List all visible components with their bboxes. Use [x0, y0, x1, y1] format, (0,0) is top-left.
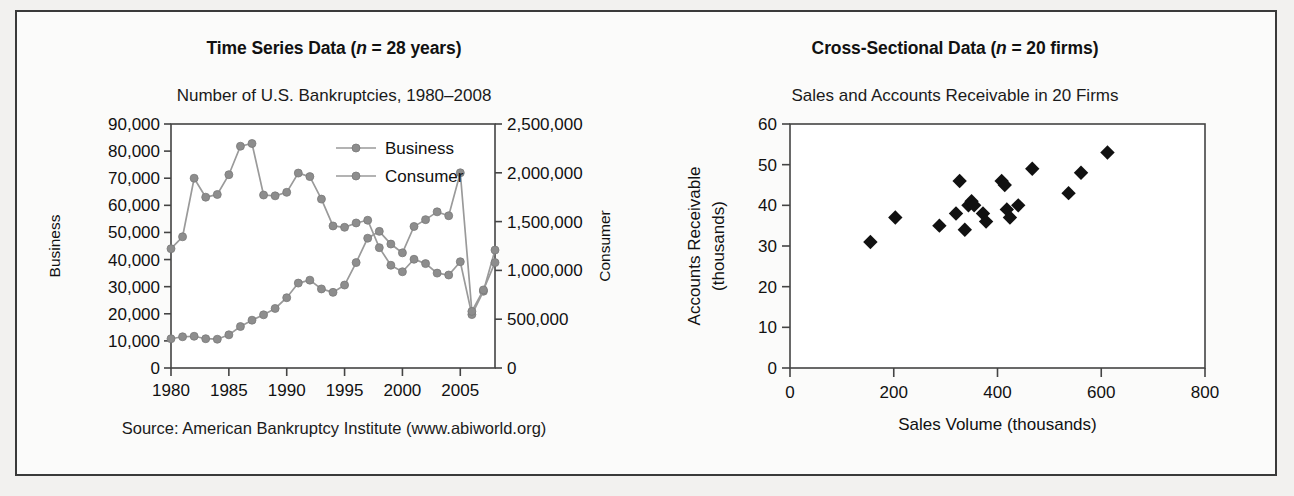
series-point-business — [375, 244, 383, 252]
scatter-x-label: 600 — [1087, 383, 1115, 402]
y-axis-label-left: 10,000 — [108, 332, 160, 351]
series-point-consumer — [433, 208, 441, 216]
series-point-consumer — [341, 281, 349, 289]
series-point-consumer — [294, 279, 302, 287]
y-axis-label-right: 2,500,000 — [507, 115, 583, 134]
series-point-consumer — [364, 234, 372, 242]
series-point-business — [329, 222, 337, 230]
y-axis-label-left: 20,000 — [108, 305, 160, 324]
scatter-y-label: 40 — [758, 196, 777, 215]
y-axis-label-right: 0 — [507, 359, 516, 378]
time-series-plot-background — [171, 124, 495, 368]
series-point-business — [225, 171, 233, 179]
scatter-title-suffix: = 20 firms) — [1007, 38, 1099, 58]
scatter-title-n-italic: n — [996, 38, 1007, 58]
series-point-business — [445, 271, 453, 279]
legend-label-business: Business — [385, 139, 454, 158]
scatter-x-label: 800 — [1191, 383, 1219, 402]
series-point-business — [213, 190, 221, 198]
series-point-business — [352, 219, 360, 227]
series-point-business — [387, 261, 395, 269]
series-point-consumer — [352, 259, 360, 267]
series-point-business — [271, 192, 279, 200]
y-axis-label-left: 40,000 — [108, 251, 160, 270]
scatter-x-title: Sales Volume (thousands) — [898, 415, 1096, 434]
series-point-business — [294, 169, 302, 177]
scatter-subtitle: Sales and Accounts Receivable in 20 Firm… — [650, 86, 1260, 106]
series-point-consumer — [491, 259, 499, 267]
time-series-chart-svg: 010,00020,00030,00040,00050,00060,00070,… — [18, 110, 650, 410]
series-point-business — [260, 191, 268, 199]
scatter-y-label: 0 — [768, 359, 777, 378]
y-axis-title-business: Business — [46, 214, 63, 277]
x-axis-label: 1980 — [152, 381, 190, 400]
scatter-plot-background — [790, 124, 1205, 368]
scatter-y-title-line2: (thousands) — [709, 201, 728, 291]
scatter-title-prefix: Cross-Sectional Data ( — [812, 38, 997, 58]
y-axis-label-left: 50,000 — [108, 223, 160, 242]
y-axis-label-left: 0 — [151, 359, 160, 378]
series-point-consumer — [306, 276, 314, 284]
scatter-y-label: 20 — [758, 278, 777, 297]
series-point-consumer — [260, 311, 268, 319]
y-axis-label-left: 30,000 — [108, 278, 160, 297]
series-point-consumer — [236, 323, 244, 331]
series-point-business — [398, 268, 406, 276]
legend-marker-business — [352, 144, 360, 152]
series-point-business — [179, 233, 187, 241]
scatter-x-label: 200 — [880, 383, 908, 402]
time-series-panel: Time Series Data (n = 28 years) Number o… — [18, 0, 650, 496]
x-axis-label: 2000 — [384, 381, 422, 400]
y-axis-label-right: 2,000,000 — [507, 164, 583, 183]
time-series-subtitle: Number of U.S. Bankruptcies, 1980–2008 — [18, 86, 650, 106]
series-point-consumer — [387, 240, 395, 248]
series-point-consumer — [213, 335, 221, 343]
series-point-consumer — [167, 335, 175, 343]
series-point-consumer — [283, 294, 291, 302]
y-axis-label-left: 60,000 — [108, 196, 160, 215]
y-axis-label-left: 90,000 — [108, 115, 160, 134]
cross-sectional-panel: Cross-Sectional Data (n = 20 firms) Sale… — [650, 0, 1260, 496]
series-point-consumer — [410, 222, 418, 230]
series-point-business — [248, 140, 256, 148]
scatter-y-label: 30 — [758, 237, 777, 256]
figure-container: Time Series Data (n = 28 years) Number o… — [0, 0, 1294, 496]
scatter-x-label: 400 — [983, 383, 1011, 402]
series-point-consumer — [445, 212, 453, 220]
scatter-y-title-line1: Accounts Receivable — [685, 167, 704, 326]
series-point-consumer — [225, 331, 233, 339]
x-axis-label: 2005 — [441, 381, 479, 400]
series-point-consumer — [468, 307, 476, 315]
y-axis-label-right: 1,000,000 — [507, 261, 583, 280]
series-point-consumer — [179, 333, 187, 341]
y-axis-label-left: 70,000 — [108, 169, 160, 188]
y-axis-label-left: 80,000 — [108, 142, 160, 161]
series-point-business — [364, 216, 372, 224]
series-point-consumer — [190, 332, 198, 340]
x-axis-label: 1985 — [210, 381, 248, 400]
series-point-business — [306, 173, 314, 181]
series-point-business — [456, 258, 464, 266]
source-note: Source: American Bankruptcy Institute (w… — [18, 419, 650, 438]
series-point-business — [491, 246, 499, 254]
series-point-consumer — [375, 227, 383, 235]
x-axis-label: 1990 — [268, 381, 306, 400]
series-point-consumer — [271, 304, 279, 312]
y-axis-label-right: 1,500,000 — [507, 213, 583, 232]
series-point-business — [341, 223, 349, 231]
series-point-business — [433, 269, 441, 277]
scatter-bold-title: Cross-Sectional Data (n = 20 firms) — [650, 38, 1260, 59]
y-axis-title-consumer: Consumer — [596, 210, 613, 282]
series-point-consumer — [479, 286, 487, 294]
series-point-consumer — [248, 316, 256, 324]
time-series-bold-title: Time Series Data (n = 28 years) — [18, 38, 650, 59]
time-series-title-prefix: Time Series Data ( — [207, 38, 357, 58]
series-point-consumer — [422, 216, 430, 224]
series-point-business — [190, 174, 198, 182]
series-point-business — [422, 260, 430, 268]
time-series-title-n-italic: n — [356, 38, 367, 58]
scatter-y-label: 10 — [758, 318, 777, 337]
series-point-consumer — [317, 285, 325, 293]
series-point-consumer — [398, 249, 406, 257]
scatter-chart-svg: 01020304050600200400600800Accounts Recei… — [650, 110, 1260, 440]
